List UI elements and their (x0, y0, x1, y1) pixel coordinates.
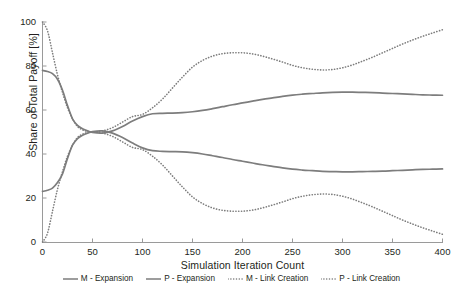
legend-line-swatch-icon (63, 275, 78, 283)
y-axis-tick-label: 100 (10, 17, 36, 27)
legend-label: P - Link Creation (339, 275, 400, 283)
plot-area (42, 22, 443, 243)
series-line (43, 22, 443, 132)
x-axis-tick-label: 250 (273, 247, 313, 257)
legend-label: M - Expansion (81, 275, 133, 283)
legend-item[interactable]: M - Expansion (63, 275, 133, 283)
y-axis-tick-label: 80 (10, 61, 36, 71)
x-axis-tick-label: 0 (23, 247, 63, 257)
legend-label: P - Expansion (164, 275, 215, 283)
x-axis-tick-label: 100 (123, 247, 163, 257)
legend-item[interactable]: M - Link Creation (228, 275, 308, 283)
y-axis-tick-label: 40 (10, 149, 36, 159)
x-axis-tick-label: 200 (223, 247, 263, 257)
chart-container: Share of Total Payoff [%] 020406080100 0… (0, 0, 463, 299)
x-axis-tick-label: 350 (373, 247, 413, 257)
x-axis-tick-label: 300 (323, 247, 363, 257)
x-axis-tick-label: 50 (73, 247, 113, 257)
x-axis-tick-label: 400 (423, 247, 463, 257)
legend-label: M - Link Creation (246, 275, 308, 283)
x-axis-ticks (43, 239, 443, 243)
x-axis-tick-label: 150 (173, 247, 213, 257)
chart-plot-svg (42, 22, 443, 243)
y-axis-tick-label: 0 (10, 237, 36, 247)
legend-line-swatch-icon (146, 275, 161, 283)
legend-item[interactable]: P - Expansion (146, 275, 215, 283)
y-axis-tick-label: 60 (10, 105, 36, 115)
data-series-group (43, 22, 443, 242)
legend-item[interactable]: P - Link Creation (321, 275, 400, 283)
y-axis-tick-label: 20 (10, 193, 36, 203)
x-axis-title: Simulation Iteration Count (42, 259, 443, 271)
series-line (43, 132, 443, 242)
legend-line-swatch-icon (321, 275, 336, 283)
series-line (43, 131, 443, 192)
legend-line-swatch-icon (228, 275, 243, 283)
chart-legend: M - ExpansionP - ExpansionM - Link Creat… (0, 275, 463, 283)
y-axis-ticks (43, 22, 47, 242)
series-line (43, 70, 443, 133)
